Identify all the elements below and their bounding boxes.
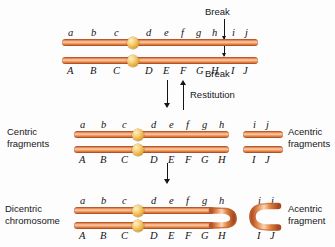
gene-label-D: D [145,65,153,76]
dicentric-hairpin-outline [212,208,236,227]
gene-label-J: J [265,154,270,165]
dicentric-lower-chromatid [74,222,214,229]
gene-label-d: d [146,27,151,38]
gene-label-b: b [101,119,106,130]
gene-label-E: E [168,230,174,241]
gene-label-A: A [79,230,85,241]
gene-label-d: d [151,119,156,130]
gene-label-f: f [186,119,189,130]
gene-label-b: b [101,195,106,206]
gene-label-I: I [252,154,256,165]
gene-label-I: I [231,65,235,76]
gene-label-H: H [218,230,226,241]
gene-label-C: C [121,154,128,165]
top-upper-chromatid [62,39,258,46]
centric-fragments-label-line2: fragments [7,138,49,149]
acentric-lower-fragment [243,146,283,153]
top-lower-chromatid [62,57,258,64]
acentric-fragments-label-line2: fragments [288,138,330,149]
restitution-label: Restitution [190,89,235,100]
gene-label-i: i [258,195,261,206]
gene-label-C: C [121,230,128,241]
acentric-upper-fragment [243,131,283,138]
gene-label-E: E [168,154,174,165]
gene-label-A: A [79,154,85,165]
acentric-fragment-c-shape [253,206,279,228]
chromosome-break-diagram: Break abcdefghij ABCDEFGHIJ Break Restit… [0,0,335,247]
gene-label-F: F [185,230,191,241]
gene-label-d: d [151,195,156,206]
centric-fragments-label-line1: Centric [7,126,37,137]
gene-label-A: A [67,65,73,76]
gene-label-e: e [169,119,174,130]
gene-label-e: e [164,27,169,38]
gene-label-h: h [212,27,217,38]
gene-label-c: c [114,27,119,38]
dicentric-chromosome-label-line1: Dicentric [5,203,42,214]
break-transition-arrow-head [164,103,170,108]
gene-label-e: e [169,195,174,206]
gene-label-B: B [100,154,106,165]
centric-upper-centromere [132,129,144,141]
gene-label-G: G [196,65,204,76]
gene-label-j: j [245,27,248,38]
acentric-fragments-label-line1: Acentric [288,126,322,137]
gene-label-i: i [232,27,235,38]
gene-label-I: I [257,230,261,241]
restitution-arrow-shaft [183,84,184,110]
gene-label-C: C [113,65,120,76]
gene-label-D: D [150,230,158,241]
gene-label-h: h [219,119,224,130]
gene-label-h: h [219,195,224,206]
break-arrow-lower-head [222,53,226,57]
gene-label-D: D [150,154,158,165]
dicentric-upper-chromatid [74,207,214,214]
gene-label-B: B [100,230,106,241]
dicentric-upper-centromere [132,205,144,217]
acentric-fragment-outline [250,204,278,230]
top-lower-centromere [127,55,139,67]
gene-label-i: i [253,119,256,130]
centric-lower-centromere [132,144,144,156]
dicentric-chromosome-label-line2: chromosome [5,215,60,226]
gene-label-a: a [80,195,85,206]
gene-label-F: F [180,65,186,76]
acentric-fragment-label-line1: Acentric [288,203,322,214]
gene-label-G: G [201,154,209,165]
gene-label-j: j [271,195,274,206]
gene-label-g: g [202,119,207,130]
gene-label-J: J [270,230,275,241]
gene-label-g: g [202,195,207,206]
gene-label-g: g [196,27,201,38]
top-upper-centromere [127,37,139,49]
gene-label-f: f [186,195,189,206]
centric-lower-chromatid [74,146,229,153]
centric-upper-chromatid [74,131,229,138]
gene-label-F: F [185,154,191,165]
gene-label-G: G [201,230,209,241]
dicentric-hairpin-loop [212,211,234,226]
gene-label-c: c [122,119,127,130]
gene-label-a: a [68,27,73,38]
break-label-upper: Break [205,6,230,17]
gene-label-H: H [218,154,226,165]
gene-label-c: c [122,195,127,206]
break-label-lower: Break [205,68,230,79]
fusion-transition-arrow-head [164,179,170,184]
gene-label-j: j [266,119,269,130]
gene-label-J: J [243,65,248,76]
gene-label-E: E [163,65,169,76]
gene-label-B: B [90,65,96,76]
gene-label-b: b [91,27,96,38]
gene-label-a: a [80,119,85,130]
acentric-fragment-label-line2: fragment [288,215,326,226]
restitution-arrow-head [180,80,186,85]
dicentric-lower-centromere [132,220,144,232]
gene-label-f: f [181,27,184,38]
